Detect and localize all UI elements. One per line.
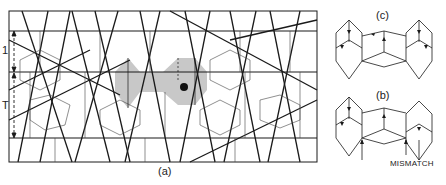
panel-c-label: (c)	[376, 10, 389, 21]
marker-dot	[180, 83, 188, 91]
shaded-cluster	[115, 58, 207, 108]
panel-a-tiling	[9, 11, 317, 162]
panel-c-diagram	[336, 20, 432, 79]
dimension-label-T: T	[2, 100, 9, 111]
panel-b-diagram	[336, 97, 432, 160]
panel-b-label: (b)	[376, 90, 389, 101]
dimension-label-1: 1	[2, 45, 8, 56]
panel-a-label: (a)	[158, 166, 171, 177]
dimension-arrows	[12, 31, 16, 138]
mismatch-annotation: MISMATCH	[390, 160, 434, 168]
